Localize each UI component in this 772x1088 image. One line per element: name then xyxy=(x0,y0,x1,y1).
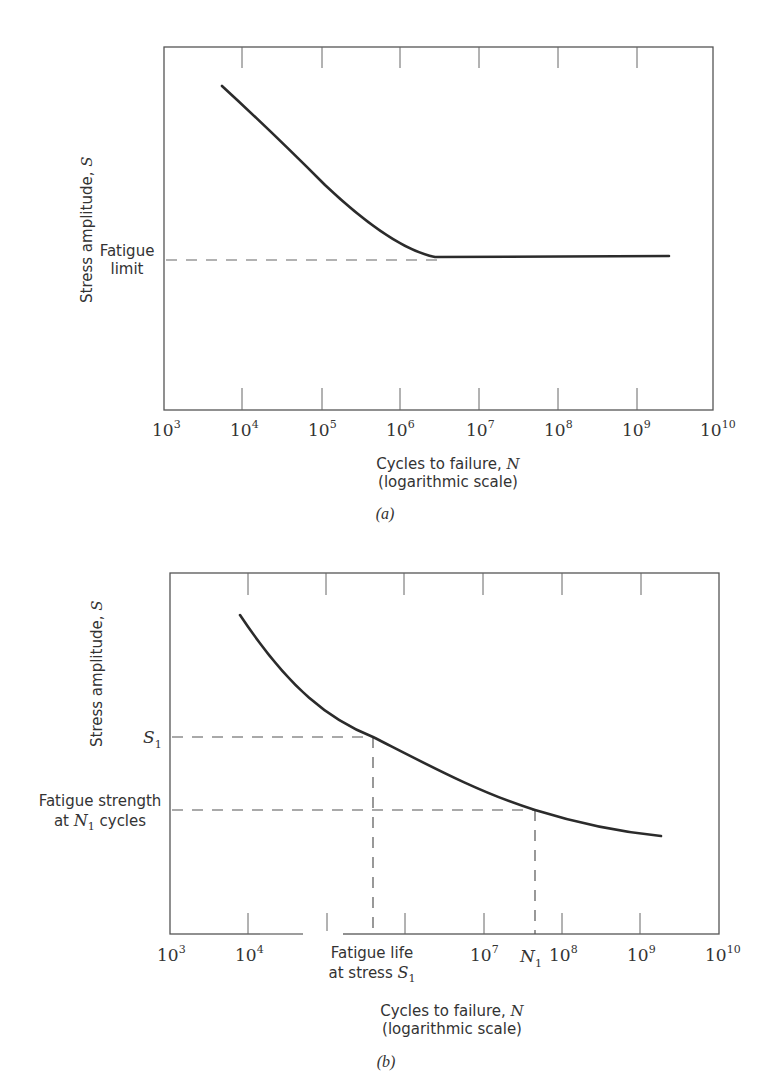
n1-label: N1 xyxy=(519,946,542,970)
chart-a: Stress amplitude, S Fatigue limit 103 10… xyxy=(78,47,736,523)
fatigue-strength-label-line1: Fatigue strength xyxy=(39,792,162,810)
chart-b-caption: (b) xyxy=(377,1053,396,1071)
svg-text:104: 104 xyxy=(230,418,259,440)
chart-a-bottom-ticks xyxy=(242,388,637,410)
svg-text:108: 108 xyxy=(549,943,578,965)
chart-a-frame xyxy=(164,47,713,410)
axis-gap xyxy=(303,931,343,937)
chart-a-caption: (a) xyxy=(376,505,395,523)
s1-label: S1 xyxy=(143,727,162,751)
chart-a-xlabel-sub: (logarithmic scale) xyxy=(378,473,518,491)
fatigue-limit-label-line2: limit xyxy=(111,260,144,278)
svg-text:104: 104 xyxy=(235,943,264,965)
svg-text:103: 103 xyxy=(152,418,181,440)
chart-b-frame xyxy=(170,573,719,934)
fatigue-strength-label-line2: at N1 cycles xyxy=(54,811,146,833)
svg-text:103: 103 xyxy=(157,943,186,965)
svg-text:107: 107 xyxy=(470,943,499,965)
svg-text:107: 107 xyxy=(466,418,495,440)
svg-text:1010: 1010 xyxy=(700,418,736,440)
fatigue-life-label-line1: Fatigue life xyxy=(331,944,413,962)
svg-text:108: 108 xyxy=(544,418,573,440)
chart-a-xlabel: Cycles to failure, N xyxy=(376,455,520,473)
chart-a-xtick-labels: 103 104 105 106 107 108 109 1010 xyxy=(152,418,736,440)
chart-b-bottom-ticks xyxy=(248,913,640,934)
chart-b-xlabel: Cycles to failure, N xyxy=(380,1002,524,1020)
chart-b-xtick-labels: 103 104 107 108 109 1010 xyxy=(157,943,741,965)
svg-text:106: 106 xyxy=(386,418,415,440)
fatigue-limit-label-line1: Fatigue xyxy=(100,242,155,260)
chart-b: Stress amplitude, S S1 Fatigue strength … xyxy=(39,573,741,1071)
chart-a-sn-curve xyxy=(222,86,669,257)
svg-text:1010: 1010 xyxy=(705,943,741,965)
fatigue-life-label-line2: at stress S1 xyxy=(329,963,416,985)
chart-b-xlabel-sub: (logarithmic scale) xyxy=(382,1020,522,1038)
svg-text:109: 109 xyxy=(627,943,656,965)
chart-b-ylabel: Stress amplitude, S xyxy=(88,601,106,747)
chart-b-top-ticks xyxy=(248,573,641,595)
chart-b-sn-curve xyxy=(240,615,661,836)
figure: Stress amplitude, S Fatigue limit 103 10… xyxy=(0,0,772,1088)
chart-a-top-ticks xyxy=(242,47,637,68)
chart-a-ylabel: Stress amplitude, S xyxy=(78,157,96,303)
svg-text:105: 105 xyxy=(308,418,337,440)
svg-text:109: 109 xyxy=(622,418,651,440)
